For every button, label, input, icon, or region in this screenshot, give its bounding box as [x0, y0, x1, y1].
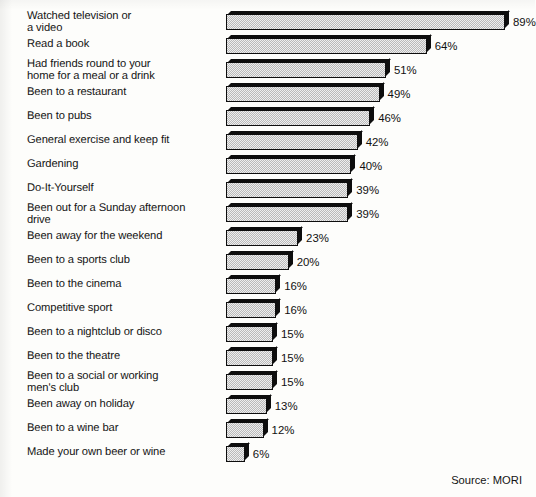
- bar-container: 15%: [226, 326, 273, 345]
- bar: [226, 302, 276, 318]
- bar-container: 89%: [226, 14, 505, 33]
- bar: [226, 422, 264, 438]
- bar-value-label: 46%: [378, 111, 401, 125]
- bar-value-label: 42%: [366, 135, 389, 149]
- chart-row: Been to a social or working men's club15…: [0, 371, 535, 395]
- bar-container: 49%: [226, 86, 380, 105]
- bar-value-label: 64%: [435, 39, 458, 53]
- chart-row: Been away for the weekend23%: [0, 227, 535, 251]
- bar: [226, 134, 358, 150]
- chart-row: Gardening40%: [0, 155, 535, 179]
- bar: [226, 278, 276, 294]
- bar-value-label: 16%: [284, 303, 307, 317]
- bar: [226, 110, 370, 126]
- chart-row: Had friends round to your home for a mea…: [0, 59, 535, 83]
- bar-value-label: 49%: [388, 87, 411, 101]
- chart-row: Been to a nightclub or disco15%: [0, 323, 535, 347]
- chart-row: Been to a wine bar12%: [0, 419, 535, 443]
- bar-container: 13%: [226, 398, 267, 417]
- bar-value-label: 15%: [281, 375, 304, 389]
- chart-row: Been to the theatre15%: [0, 347, 535, 371]
- chart-row: Watched television or a video89%: [0, 11, 535, 35]
- category-label: Been to the theatre: [27, 347, 225, 363]
- bar-container: 42%: [226, 134, 358, 153]
- bar-value-label: 12%: [272, 423, 295, 437]
- bar-container: 39%: [226, 206, 348, 225]
- chart-row: Do-It-Yourself39%: [0, 179, 535, 203]
- bar-value-label: 13%: [275, 399, 298, 413]
- chart-row: Made your own beer or wine6%: [0, 443, 535, 467]
- chart-row: Been out for a Sunday afternoon drive39%: [0, 203, 535, 227]
- category-label: Been out for a Sunday afternoon drive: [27, 203, 225, 226]
- chart-row: Been to pubs46%: [0, 107, 535, 131]
- bar-container: 40%: [226, 158, 351, 177]
- bar: [226, 350, 273, 366]
- category-label: Been to the cinema: [27, 275, 225, 291]
- category-label: Been to a nightclub or disco: [27, 323, 225, 339]
- category-label: Been to a restaurant: [27, 83, 225, 99]
- bar: [226, 62, 386, 78]
- category-label: Been away on holiday: [27, 395, 225, 411]
- category-label: Been to pubs: [27, 107, 225, 123]
- bar-container: 46%: [226, 110, 370, 129]
- bar-value-label: 23%: [306, 231, 329, 245]
- category-label: Watched television or a video: [27, 11, 225, 34]
- chart-row: Been to a restaurant49%: [0, 83, 535, 107]
- bar: [226, 206, 348, 222]
- bar-container: 23%: [226, 230, 298, 249]
- bar-value-label: 6%: [253, 447, 269, 461]
- chart-rows: Watched television or a video89%Read a b…: [0, 11, 535, 467]
- bar: [226, 158, 351, 174]
- category-label: Been away for the weekend: [27, 227, 225, 243]
- bar-container: 15%: [226, 374, 273, 393]
- bar-container: 16%: [226, 302, 276, 321]
- bar: [226, 398, 267, 414]
- bar-value-label: 15%: [281, 351, 304, 365]
- category-label: Been to a social or working men's club: [27, 371, 225, 394]
- chart-row: Been to a sports club20%: [0, 251, 535, 275]
- bar-container: 39%: [226, 182, 348, 201]
- bar: [226, 374, 273, 390]
- bar-value-label: 39%: [356, 183, 379, 197]
- bar-container: 20%: [226, 254, 289, 273]
- category-label: Gardening: [27, 155, 225, 171]
- category-label: Competitive sport: [27, 299, 225, 315]
- chart-row: Competitive sport16%: [0, 299, 535, 323]
- bar-value-label: 20%: [297, 255, 320, 269]
- bar: [226, 86, 380, 102]
- chart-row: Been away on holiday13%: [0, 395, 535, 419]
- category-label: Been to a sports club: [27, 251, 225, 267]
- bar-container: 64%: [226, 38, 427, 57]
- chart-row: General exercise and keep fit42%: [0, 131, 535, 155]
- bar-container: 16%: [226, 278, 276, 297]
- category-label: Had friends round to your home for a mea…: [27, 59, 225, 82]
- category-label: Read a book: [27, 35, 225, 51]
- bar: [226, 182, 348, 198]
- bar: [226, 230, 298, 246]
- category-label: General exercise and keep fit: [27, 131, 225, 147]
- category-label: Do-It-Yourself: [27, 179, 225, 195]
- category-label: Made your own beer or wine: [27, 443, 225, 459]
- source-attribution: Source: MORI: [451, 474, 522, 486]
- bar: [226, 326, 273, 342]
- bar-value-label: 15%: [281, 327, 304, 341]
- bar-value-label: 51%: [394, 63, 417, 77]
- bar-value-label: 16%: [284, 279, 307, 293]
- bar-container: 15%: [226, 350, 273, 369]
- bar-container: 12%: [226, 422, 264, 441]
- bar: [226, 14, 505, 30]
- bar-value-label: 40%: [359, 159, 382, 173]
- bar: [226, 38, 427, 54]
- bar-container: 6%: [226, 446, 245, 465]
- bar-container: 51%: [226, 62, 386, 81]
- bar: [226, 446, 245, 462]
- chart-row: Read a book64%: [0, 35, 535, 59]
- bar: [226, 254, 289, 270]
- bar-value-label: 39%: [356, 207, 379, 221]
- chart-row: Been to the cinema16%: [0, 275, 535, 299]
- category-label: Been to a wine bar: [27, 419, 225, 435]
- bar-value-label: 89%: [513, 15, 536, 29]
